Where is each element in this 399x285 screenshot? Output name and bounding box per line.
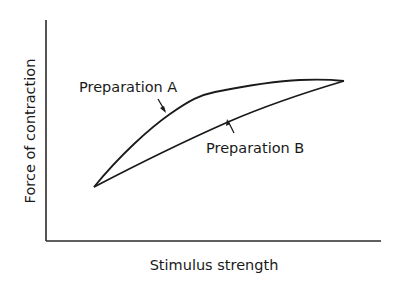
label-preparation-a: Preparation A <box>79 79 177 95</box>
curve-preparation-a <box>94 80 344 187</box>
arrow-a-icon <box>158 99 166 113</box>
x-axis-label: Stimulus strength <box>150 257 279 273</box>
label-preparation-b: Preparation B <box>206 140 304 156</box>
curve-preparation-b <box>94 81 344 187</box>
y-axis-label: Force of contraction <box>22 59 38 204</box>
chart: Preparation A Preparation B Stimulus str… <box>0 0 399 285</box>
